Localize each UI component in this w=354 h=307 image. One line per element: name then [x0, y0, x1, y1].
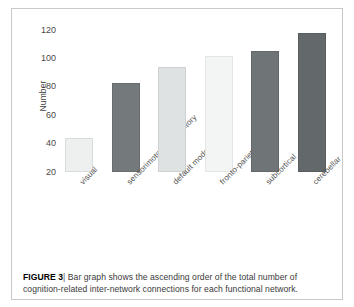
bar [112, 83, 140, 172]
figure-caption-label: FIGURE 3 [23, 272, 63, 282]
y-axis-tick-label: 40 [30, 139, 56, 148]
y-axis-tick-label: 100 [30, 54, 56, 63]
bar [65, 138, 93, 172]
bar [298, 33, 326, 172]
bar [205, 56, 233, 172]
y-axis-tick-label: 60 [30, 111, 56, 120]
bar [251, 51, 279, 172]
y-axis-tick-labels: 20406080100120 [26, 0, 56, 265]
bar [158, 67, 186, 172]
figure-caption-text: Bar graph shows the ascending order of t… [23, 272, 298, 294]
figure-caption-separator: | [63, 272, 65, 282]
y-axis-tick-label: 80 [30, 82, 56, 91]
bar-chart-plot-area: Number 20406080100120 visualsensorimotor… [0, 0, 354, 265]
figure-caption: FIGURE 3| Bar graph shows the ascending … [23, 272, 325, 295]
y-axis-tick-label: 120 [30, 26, 56, 35]
figure-container: Number 20406080100120 visualsensorimotor… [0, 0, 354, 307]
y-axis-tick-label: 20 [30, 168, 56, 177]
bars-layer: visualsensorimotor and auditorydefault m… [60, 0, 342, 265]
